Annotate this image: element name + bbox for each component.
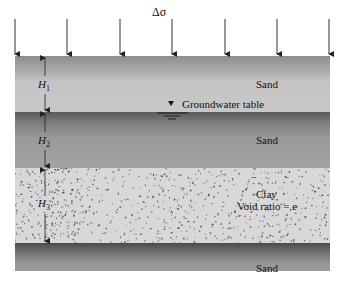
layer-label-sand-1: Sand bbox=[256, 78, 278, 90]
load-arrows bbox=[15, 19, 329, 54]
load-label: Δσ bbox=[152, 5, 166, 20]
layer-label-clay: Clay bbox=[256, 188, 277, 200]
layer-label-sand-3: Sand bbox=[256, 262, 278, 274]
diagram-overlay bbox=[0, 0, 341, 293]
thickness-label-h2: H2 bbox=[38, 134, 50, 149]
layer-label-sand-2: Sand bbox=[256, 134, 278, 146]
thickness-label-h1: H1 bbox=[38, 78, 50, 93]
clay-void-ratio-label: Void ratio = e bbox=[237, 200, 297, 212]
groundwater-label: Groundwater table bbox=[182, 98, 264, 110]
thickness-label-h3: H3 bbox=[38, 197, 50, 212]
